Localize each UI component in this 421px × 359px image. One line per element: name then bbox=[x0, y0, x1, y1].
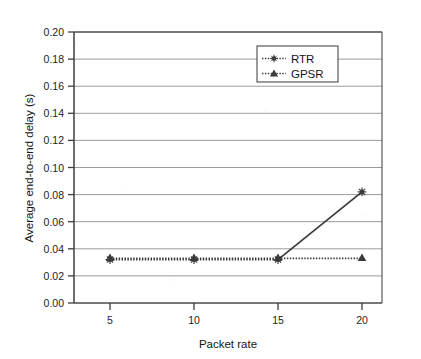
y-tick-label: 0.08 bbox=[44, 189, 65, 201]
gridlines bbox=[74, 59, 382, 276]
x-tick-label: 5 bbox=[107, 314, 113, 326]
series-rtr-line-rise bbox=[278, 192, 362, 260]
y-axis-ticks bbox=[68, 32, 74, 303]
legend-label-rtr: RTR bbox=[291, 53, 314, 65]
legend-label-gpsr: GPSR bbox=[291, 68, 324, 80]
chart-svg: 0.20 0.18 0.16 0.14 0.12 0.10 0.08 0.06 … bbox=[0, 0, 421, 359]
y-tick-label: 0.12 bbox=[44, 134, 65, 146]
x-axis-ticks bbox=[110, 303, 362, 310]
chart-figure: 0.20 0.18 0.16 0.14 0.12 0.10 0.08 0.06 … bbox=[0, 0, 421, 359]
y-tick-label: 0.20 bbox=[44, 26, 65, 38]
y-tick-label: 0.14 bbox=[44, 107, 65, 119]
star-marker bbox=[274, 255, 283, 264]
y-tick-label: 0.06 bbox=[44, 216, 65, 228]
x-tick-label: 20 bbox=[356, 314, 368, 326]
y-tick-label: 0.16 bbox=[44, 80, 65, 92]
y-tick-label: 0.10 bbox=[44, 162, 65, 174]
x-tick-labels: 5 10 15 20 bbox=[107, 314, 368, 326]
legend: RTR GPSR bbox=[257, 46, 338, 82]
series-rtr bbox=[106, 188, 367, 265]
y-tick-label: 0.00 bbox=[44, 297, 65, 309]
x-tick-label: 15 bbox=[272, 314, 284, 326]
star-marker bbox=[106, 255, 115, 264]
y-tick-label: 0.02 bbox=[44, 270, 65, 282]
star-marker bbox=[358, 188, 367, 197]
y-tick-label: 0.18 bbox=[44, 53, 65, 65]
star-marker bbox=[270, 55, 278, 63]
triangle-marker bbox=[358, 254, 367, 262]
series-rtr-markers bbox=[106, 188, 367, 265]
x-axis-title: Packet rate bbox=[199, 338, 257, 350]
x-tick-label: 10 bbox=[188, 314, 200, 326]
y-axis-title: Average end-to-end delay (s) bbox=[23, 93, 35, 242]
star-marker bbox=[190, 255, 199, 264]
y-tick-label: 0.04 bbox=[44, 243, 65, 255]
y-tick-labels: 0.20 0.18 0.16 0.14 0.12 0.10 0.08 0.06 … bbox=[44, 26, 65, 309]
